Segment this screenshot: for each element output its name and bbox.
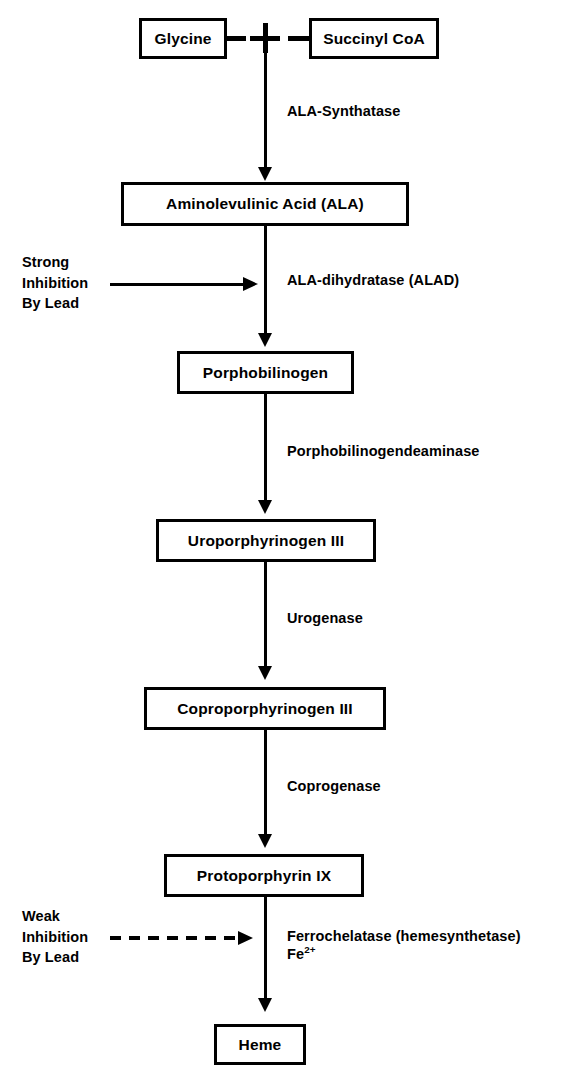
cofactor-iron: Fe2+ (287, 945, 521, 963)
inhibition-weak-lead-arrow-shaft (110, 936, 238, 940)
plus-junction-icon (250, 23, 280, 53)
spine-glycine-to-ala (264, 53, 267, 168)
inhibition-weak-lead-line2: Inhibition (22, 927, 88, 948)
inhibition-weak-lead-arrow (110, 931, 258, 945)
node-heme: Heme (215, 1025, 305, 1064)
inhibition-weak-lead-arrowhead (238, 931, 253, 945)
enzyme-ala-dihydratase-label: ALA-dihydratase (ALAD) (287, 272, 459, 288)
node-coproporphyrinogen-iii: Coproporphyrinogen III (145, 688, 385, 729)
node-uroporphyrinogen-iii: Uroporphyrinogen III (157, 520, 375, 561)
inhibition-weak-lead-line1: Weak (22, 906, 88, 927)
enzyme-urogenase-label: Urogenase (287, 610, 363, 626)
arrowhead-to-coproporphyrinogen (258, 666, 272, 680)
node-protoporphyrin-ix: Protoporphyrin IX (165, 855, 363, 896)
node-glycine: Glycine (140, 19, 226, 58)
node-succinyl-coa: Succinyl CoA (310, 19, 438, 58)
spine-protoporphyrin-to-heme (264, 896, 267, 999)
inhibition-weak-lead-text: Weak Inhibition By Lead (22, 906, 88, 968)
inhibition-strong-lead-line2: Inhibition (22, 273, 88, 294)
node-aminolevulinic-acid: Aminolevulinic Acid (ALA) (122, 183, 408, 225)
node-glycine-label: Glycine (154, 31, 211, 47)
spine-porphobilinogen-to-uroporphyrinogen (264, 393, 267, 501)
inhibition-strong-lead-line3: By Lead (22, 293, 88, 314)
inhibition-strong-lead-arrow-shaft (110, 283, 243, 286)
enzyme-ferrochelatase-label: Ferrochelatase (hemesynthetase) (287, 927, 521, 945)
node-porphobilinogen: Porphobilinogen (178, 352, 353, 393)
arrowhead-to-porphobilinogen (258, 333, 272, 347)
inhibition-strong-lead-arrowhead (243, 277, 258, 291)
cofactor-iron-charge: 2+ (304, 944, 315, 955)
cofactor-iron-element: Fe (287, 946, 304, 962)
arrowhead-to-ala (258, 167, 272, 181)
enzyme-ala-dihydratase: ALA-dihydratase (ALAD) (287, 271, 459, 289)
glycine-to-plus-connector (226, 36, 246, 41)
succinyl-coa-to-plus-connector (288, 36, 312, 41)
node-succinyl-coa-label: Succinyl CoA (323, 31, 425, 47)
enzyme-ala-synthatase: ALA-Synthatase (287, 102, 400, 120)
heme-biosynthesis-pathway-diagram: Glycine Succinyl CoA ALA-Synthatase Amin… (0, 0, 578, 1082)
enzyme-coprogenase: Coprogenase (287, 777, 381, 795)
inhibition-strong-lead-arrow (110, 277, 258, 291)
enzyme-ferrochelatase: Ferrochelatase (hemesynthetase) Fe2+ (287, 927, 521, 963)
inhibition-weak-lead-line3: By Lead (22, 947, 88, 968)
spine-coproporphyrinogen-to-protoporphyrin (264, 729, 267, 835)
inhibition-strong-lead-text: Strong Inhibition By Lead (22, 252, 88, 314)
node-heme-label: Heme (239, 1037, 282, 1053)
enzyme-coprogenase-label: Coprogenase (287, 778, 381, 794)
inhibition-strong-lead-line1: Strong (22, 252, 88, 273)
node-aminolevulinic-acid-label: Aminolevulinic Acid (ALA) (166, 196, 364, 212)
enzyme-porphobilinogendeaminase: Porphobilinogendeaminase (287, 442, 480, 460)
node-protoporphyrin-ix-label: Protoporphyrin IX (197, 868, 331, 884)
spine-uroporphyrinogen-to-coproporphyrinogen (264, 561, 267, 667)
node-uroporphyrinogen-iii-label: Uroporphyrinogen III (188, 533, 344, 549)
arrowhead-to-protoporphyrin (258, 834, 272, 848)
enzyme-ala-synthatase-label: ALA-Synthatase (287, 103, 400, 119)
arrowhead-to-uroporphyrinogen (258, 500, 272, 514)
node-coproporphyrinogen-iii-label: Coproporphyrinogen III (177, 701, 353, 717)
enzyme-urogenase: Urogenase (287, 609, 363, 627)
enzyme-porphobilinogendeaminase-label: Porphobilinogendeaminase (287, 443, 480, 459)
node-porphobilinogen-label: Porphobilinogen (203, 365, 328, 381)
arrowhead-to-heme (258, 998, 272, 1012)
spine-ala-to-porphobilinogen (264, 225, 267, 334)
